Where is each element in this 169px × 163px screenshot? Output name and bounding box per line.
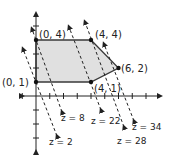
vertex-label-4-4: (4, 4) (95, 29, 122, 40)
vertex-label-0-1: (0, 1) (2, 77, 29, 88)
vertex-4-1 (89, 80, 93, 84)
z-label-22: z = 22 (91, 116, 120, 126)
vertex-label-0-4: (0, 4) (39, 29, 66, 40)
vertex-0-4 (34, 38, 38, 42)
vertex-4-4 (89, 38, 93, 42)
lp-diagram: (0, 4) (4, 4) (6, 2) (4, 1) (0, 1) z = 8… (0, 0, 169, 163)
vertex-label-4-1: (4, 1) (94, 83, 121, 94)
z-label-2: z = 2 (49, 137, 73, 147)
z-label-8: z = 8 (61, 113, 85, 123)
z-label-28: z = 28 (117, 136, 147, 146)
z-label-34: z = 34 (132, 122, 162, 132)
vertex-label-6-2: (6, 2) (121, 63, 148, 74)
vertex-0-1 (34, 80, 38, 84)
